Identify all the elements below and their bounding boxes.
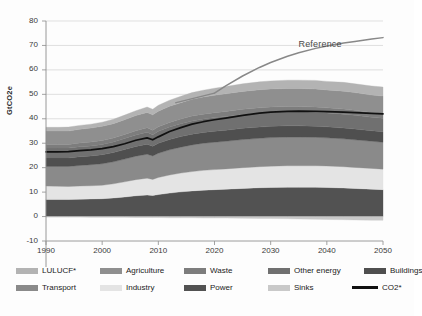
legend-swatch-icon — [100, 268, 122, 274]
reference-line-annotation: Reference — [298, 39, 341, 49]
y-tick-label: 40 — [12, 114, 38, 122]
y-tick-label: 50 — [12, 90, 38, 98]
legend-item-waste[interactable]: Waste — [184, 264, 232, 277]
y-tick-label: 70 — [12, 41, 38, 49]
legend-swatch-icon — [16, 285, 38, 291]
legend-item-transport[interactable]: Transport — [16, 281, 76, 294]
legend-item-lulucf-[interactable]: LULUCF* — [16, 264, 76, 277]
x-tick-label: 2000 — [82, 247, 122, 255]
legend-label: Waste — [210, 267, 232, 275]
x-tick-label: 2020 — [195, 247, 235, 255]
legend-row: TransportIndustryPowerSinksCO2* — [16, 281, 410, 294]
x-tick-label: 2030 — [251, 247, 291, 255]
y-tick-label: 60 — [12, 65, 38, 73]
legend-swatch-icon — [100, 285, 122, 291]
y-tick-label: 20 — [12, 163, 38, 171]
legend-label: Power — [210, 284, 233, 292]
legend-item-industry[interactable]: Industry — [100, 281, 154, 294]
legend-item-sinks[interactable]: Sinks — [268, 281, 314, 294]
legend-label: Sinks — [294, 284, 314, 292]
legend-label: Transport — [42, 284, 76, 292]
x-tick-label: 2050 — [363, 247, 403, 255]
x-tick-label: 2010 — [138, 247, 178, 255]
legend-row: LULUCF*AgricultureWasteOther energyBuild… — [16, 264, 410, 277]
legend-swatch-icon — [352, 286, 378, 289]
legend-swatch-icon — [16, 268, 38, 274]
legend-label: Industry — [126, 284, 154, 292]
legend-item-buildings[interactable]: Buildings — [364, 264, 422, 277]
x-tick-label: 1990 — [26, 247, 66, 255]
legend-item-agriculture[interactable]: Agriculture — [100, 264, 164, 277]
legend-item-other-energy[interactable]: Other energy — [268, 264, 341, 277]
y-tick-label: 30 — [12, 139, 38, 147]
legend-item-co2-[interactable]: CO2* — [352, 281, 402, 294]
chart-legend: LULUCF*AgricultureWasteOther energyBuild… — [16, 264, 410, 298]
legend-label: Agriculture — [126, 267, 164, 275]
area-band-sinks — [46, 217, 383, 221]
y-tick-label: 0 — [12, 212, 38, 220]
legend-label: Other energy — [294, 267, 341, 275]
sinks-band — [46, 217, 383, 221]
y-tick-label: -10 — [12, 237, 38, 245]
legend-swatch-icon — [364, 268, 386, 274]
legend-swatch-icon — [268, 268, 290, 274]
legend-swatch-icon — [268, 285, 290, 291]
legend-swatch-icon — [184, 268, 206, 274]
legend-label: Buildings — [390, 267, 422, 275]
legend-label: CO2* — [382, 284, 402, 292]
legend-label: LULUCF* — [42, 267, 76, 275]
x-tick-label: 2040 — [307, 247, 347, 255]
y-tick-label: 80 — [12, 17, 38, 25]
y-tick-label: 10 — [12, 188, 38, 196]
legend-item-power[interactable]: Power — [184, 281, 233, 294]
legend-swatch-icon — [184, 285, 206, 291]
